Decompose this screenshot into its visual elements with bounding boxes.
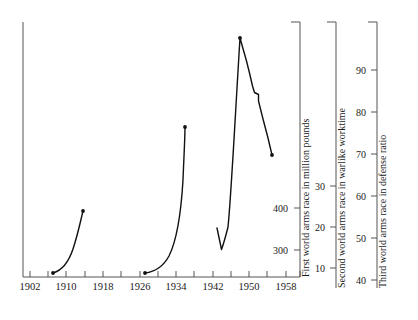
y-tick-label-first: 400 [273,203,288,214]
x-tick-label: 1926 [130,281,151,292]
y-tick-label-second: 20 [315,222,325,233]
y-tick-label-second: 30 [315,181,325,192]
x-tick-label: 1942 [203,281,224,292]
y-axis-title-first: First world arms race in million pounds [300,119,311,277]
x-tick-label: 1902 [20,281,41,292]
curve-endpoint-marker [183,125,187,129]
y-axis-second-line [327,22,336,288]
chart-svg: 1902 1910 1918 1926 1934 1942 1950 1958 [0,0,418,320]
y-tick-label-second: 10 [315,263,325,274]
series-first-world-arms-race [51,209,85,275]
y-tick-label-third: 70 [356,149,366,160]
y-axis-title-third: Third world arms race in defense ratio [377,135,388,288]
x-tick-label: 1934 [166,281,188,292]
curve-endpoint-marker [143,271,147,275]
y-tick-label-first: 300 [273,245,288,256]
curve-path [217,38,272,250]
y-tick-label-third: 80 [356,107,366,118]
curve-peak-marker [238,36,242,40]
y-axis-first-world: 400 300 First world arms race in million… [273,22,311,277]
curve-path [145,127,185,273]
x-axis-ticks [30,271,300,277]
y-axis-third-world: 90 80 70 60 50 40 Third world arms race … [356,22,388,288]
x-axis-tick-labels: 1902 1910 1918 1926 1934 1942 1950 1958 [20,281,297,292]
curve-endpoint-marker [81,209,85,213]
chart-figure: 1902 1910 1918 1926 1934 1942 1950 1958 [0,0,418,320]
x-tick-label: 1950 [239,281,260,292]
x-tick-label: 1918 [93,281,114,292]
x-tick-label: 1910 [56,281,77,292]
y-tick-label-third: 90 [356,65,366,76]
y-tick-label-third: 60 [356,191,366,202]
series-second-world-arms-race [143,125,187,275]
curve-endpoint-marker [270,153,274,157]
y-axis-third-line [368,22,377,288]
y-tick-label-third: 40 [356,275,366,286]
y-tick-label-third: 50 [356,233,366,244]
curve-path [53,211,83,273]
y-axis-title-second: Second world arms race in warlike workti… [336,107,347,288]
series-third-world-arms-race [217,36,274,249]
curve-endpoint-marker [51,271,55,275]
y-axis-second-world: 30 20 10 Second world arms race in warli… [315,22,347,288]
y-axis-first-line [291,22,300,277]
x-tick-label: 1958 [276,281,297,292]
